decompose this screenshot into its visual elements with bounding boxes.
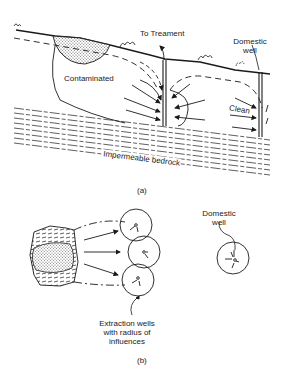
label-domestic-b-line1: Domestic: [196, 209, 242, 218]
well-radius-bottom: [122, 264, 154, 296]
label-domestic-well-b: Domestic well: [196, 209, 242, 227]
label-domestic-b-line2: well: [196, 218, 242, 227]
caption-b: (b): [137, 356, 147, 365]
diagram-canvas: [0, 0, 284, 370]
leader-extraction: [131, 297, 138, 315]
shrub-icon: [236, 62, 244, 67]
extraction-well-circles: [120, 209, 160, 296]
capture-boundary-bottom: [74, 282, 125, 285]
flow-arrows-right: [172, 84, 205, 120]
label-domestic-well-a: Domestic well: [229, 37, 271, 55]
label-extraction-wells: Extraction wells with radius of influenc…: [92, 319, 162, 346]
label-to-treatment: To Treament: [140, 29, 184, 38]
label-domestic-line2: well: [229, 46, 271, 55]
water-table-right: [170, 76, 262, 108]
label-domestic-line1: Domestic: [229, 37, 271, 46]
flow-arrows-b: [84, 231, 120, 275]
impermeable-bedrock: [14, 108, 270, 175]
label-extraction-line3: influences: [92, 337, 162, 346]
label-extraction-line1: Extraction wells: [92, 319, 162, 328]
shrub-icon: [120, 42, 135, 47]
capture-zone: [170, 90, 188, 126]
vegetation-icon: [14, 24, 21, 26]
contamination-source: [53, 36, 110, 64]
domestic-well-b: [217, 222, 249, 274]
label-contaminated: Contaminated: [64, 74, 114, 83]
well-radius-middle: [128, 236, 160, 268]
shrub-icon: [198, 55, 212, 60]
caption-a: (a): [137, 186, 147, 195]
capture-boundary-top: [74, 221, 125, 230]
label-extraction-line2: with radius of: [92, 328, 162, 337]
source-area-core: [32, 243, 73, 273]
flow-arrows-left: [124, 62, 162, 120]
